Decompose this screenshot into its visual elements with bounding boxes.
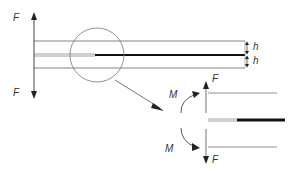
dim-arrow-down-icon [245,64,249,68]
force-label-top-right: F [212,73,219,84]
dim-arrow-up-icon [245,56,249,60]
moment-arrow-bottom-icon [192,143,200,151]
pointer-arrow-icon [151,103,164,111]
moment-arrow-top-icon [192,91,200,98]
thickness-label-bottom: h [253,55,259,66]
arrow-up-icon [31,12,37,20]
force-label-bottom-right: F [212,154,219,165]
moment-label-top: M [169,89,178,100]
arrow-down-icon [203,156,209,164]
crack-tip-detail: F F M M [165,73,285,165]
arrow-down-icon [31,91,37,99]
dim-arrow-down-icon [245,51,249,55]
moment-label-bottom: M [165,143,174,154]
detail-pointer [115,80,164,111]
left-force-arrows: F F [13,12,37,99]
arrow-up-icon [203,81,209,89]
fracture-diagram: F F h h F F [0,0,292,171]
thickness-dimensions: h h [245,41,259,68]
specimen-beam [34,41,245,68]
dim-arrow-up-icon [245,42,249,46]
force-label-bottom-left: F [13,87,20,98]
thickness-label-top: h [253,41,259,52]
force-label-top-left: F [13,12,20,23]
